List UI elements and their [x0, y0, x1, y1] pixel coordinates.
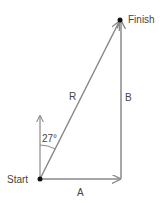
- vertical-label: B: [125, 92, 132, 103]
- vector-r: [40, 22, 119, 179]
- start-dot: [38, 177, 43, 182]
- start-label: Start: [7, 174, 28, 185]
- angle-label: 27°: [42, 133, 57, 144]
- finish-label: Finish: [128, 14, 155, 25]
- horizontal-label: A: [77, 187, 84, 198]
- finish-dot: [118, 18, 123, 23]
- vector-diagram: Start Finish R B A 27°: [0, 0, 163, 203]
- resultant-label: R: [69, 91, 76, 102]
- angle-arc: [40, 145, 56, 149]
